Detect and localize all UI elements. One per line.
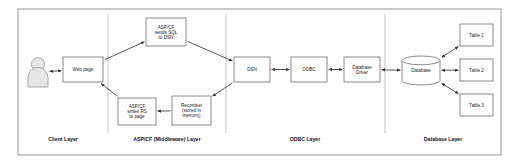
odbc-box[interactable]: ODBC: [291, 57, 327, 82]
layer-label-odbc: ODBC Layer: [290, 136, 321, 142]
recordset-box-label: memory): [182, 113, 201, 118]
asp-sends-sql-box[interactable]: ASP/CFsends SQLto DSN: [146, 18, 186, 46]
database-driver-box-label: Driver: [356, 70, 369, 75]
table-3-box-label: Table 3: [469, 103, 484, 108]
odbc-box-label: ODBC: [302, 67, 316, 72]
web-page-box[interactable]: Web page: [63, 57, 103, 82]
layer-label-database: Database Layer: [424, 136, 462, 142]
asp-writes-rs-box-label: to page: [129, 114, 145, 119]
dsn-box[interactable]: DSN: [234, 57, 270, 82]
web-page-box-label: Web page: [73, 67, 94, 72]
table-2-box-label: Table 2: [469, 68, 484, 73]
diagram-canvas: Web pageASP/CFsends SQLto DSNASP/CFwrite…: [0, 0, 520, 165]
asp-sends-sql-box-label: to DSN: [159, 35, 174, 40]
user-body-icon: [28, 67, 48, 87]
table-1-box[interactable]: Table 1: [460, 24, 493, 46]
table-3-box[interactable]: Table 3: [460, 94, 493, 116]
database-cylinder-top: [402, 56, 440, 65]
asp-writes-rs-box[interactable]: ASP/CFwrites RSto page: [118, 98, 156, 125]
layer-label-client: Client Layer: [48, 136, 78, 142]
database-cylinder-label: Database: [411, 68, 431, 73]
table-2-box[interactable]: Table 2: [460, 59, 493, 81]
layer-label-middleware: ASP/CF (Middleware) Layer: [133, 136, 200, 142]
dsn-box-label: DSN: [247, 67, 257, 72]
architecture-diagram: Web pageASP/CFsends SQLto DSNASP/CFwrite…: [0, 0, 520, 165]
table-1-box-label: Table 1: [469, 33, 484, 38]
database-driver-box[interactable]: DatabaseDriver: [344, 57, 380, 82]
recordset-box[interactable]: Recordset(stored inmemory): [172, 96, 211, 125]
database-cylinder[interactable]: Database: [402, 56, 440, 85]
